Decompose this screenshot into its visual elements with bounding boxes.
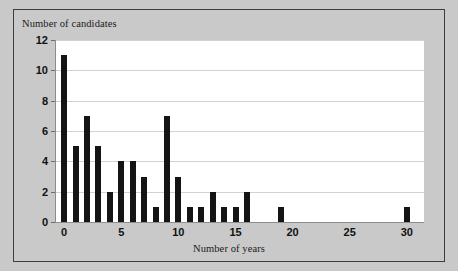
x-axis-title: Number of years — [0, 243, 458, 254]
y-tick-label: 10 — [22, 64, 48, 76]
bar — [141, 177, 147, 223]
y-tick-label: 6 — [22, 125, 48, 137]
gridline — [55, 70, 424, 71]
chart-figure: Number of candidates 024681012 051015202… — [0, 0, 458, 271]
bar — [95, 146, 101, 222]
bar — [73, 146, 79, 222]
bar — [187, 207, 193, 222]
bar — [84, 116, 90, 222]
bar — [244, 192, 250, 222]
x-tick-label: 15 — [221, 226, 251, 238]
x-tick-label: 25 — [335, 226, 365, 238]
y-axis-line — [55, 40, 56, 223]
y-tick-label: 2 — [22, 186, 48, 198]
gridline — [55, 161, 424, 162]
y-tick-mark — [51, 192, 55, 193]
y-tick-mark — [51, 40, 55, 41]
x-tick-label: 10 — [163, 226, 193, 238]
y-tick-mark — [51, 101, 55, 102]
y-tick-mark — [51, 70, 55, 71]
plot-area — [55, 40, 424, 222]
x-tick-label: 5 — [106, 226, 136, 238]
bar — [233, 207, 239, 222]
bar — [404, 207, 410, 222]
gridline — [55, 101, 424, 102]
bar — [61, 55, 67, 222]
x-tick-label: 20 — [278, 226, 308, 238]
x-tick-label: 30 — [392, 226, 422, 238]
bar — [107, 192, 113, 222]
bar — [221, 207, 227, 222]
bar — [198, 207, 204, 222]
y-tick-mark — [51, 222, 55, 223]
y-tick-mark — [51, 131, 55, 132]
y-tick-label: 8 — [22, 95, 48, 107]
y-tick-label: 0 — [22, 216, 48, 228]
y-tick-label: 4 — [22, 155, 48, 167]
y-axis-title: Number of candidates — [22, 18, 117, 29]
bar — [175, 177, 181, 223]
bar — [130, 161, 136, 222]
bar — [164, 116, 170, 222]
bar — [153, 207, 159, 222]
bar — [118, 161, 124, 222]
gridline — [55, 40, 424, 41]
y-tick-label: 12 — [22, 34, 48, 46]
bar — [210, 192, 216, 222]
bar — [278, 207, 284, 222]
x-axis-line — [55, 222, 424, 223]
y-tick-mark — [51, 161, 55, 162]
gridline — [55, 131, 424, 132]
x-tick-label: 0 — [49, 226, 79, 238]
